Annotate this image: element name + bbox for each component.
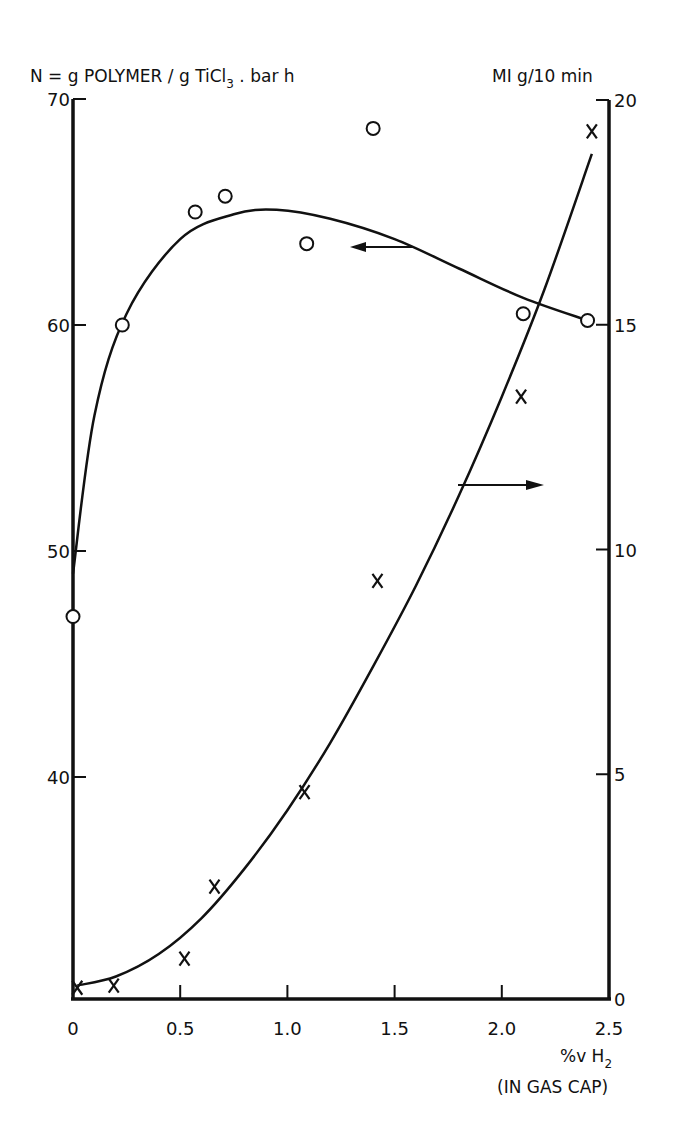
x-axis-title: %v H2 — [560, 1046, 612, 1071]
melt-index-data-point — [516, 390, 526, 404]
activity-data-point — [67, 610, 80, 623]
right-axis-arrow — [458, 480, 544, 490]
x-tick-label: 0.5 — [166, 1018, 195, 1039]
y-left-tick-label: 70 — [47, 89, 70, 110]
melt-index-data-point — [179, 952, 189, 966]
y-right-tick-label: 15 — [614, 315, 637, 336]
y-left-tick-label: 50 — [47, 541, 70, 562]
y-right-tick-label: 0 — [614, 989, 625, 1010]
melt-index-markers — [72, 124, 597, 994]
activity-markers — [67, 122, 595, 623]
y-right-tick-label: 20 — [614, 90, 637, 111]
activity-data-point — [300, 237, 313, 250]
y-right-tick-label: 5 — [614, 764, 625, 785]
axes — [71, 99, 611, 1000]
melt-index-data-point — [109, 979, 119, 993]
x-axis-subtitle: (IN GAS CAP) — [497, 1077, 608, 1097]
y-left-tick-label: 60 — [47, 315, 70, 336]
left-axis-title: N = g POLYMER / g TiCl3 . bar h — [30, 66, 295, 91]
melt-index-fit-curve — [77, 154, 592, 986]
axis-tick-labels: 00.51.01.52.02.54050607005101520 — [47, 89, 637, 1039]
activity-data-point — [517, 307, 530, 320]
x-tick-label: 1.0 — [273, 1018, 302, 1039]
activity-data-point — [219, 190, 232, 203]
melt-index-data-point — [300, 785, 310, 799]
melt-index-data-point — [210, 880, 220, 894]
activity-data-point — [116, 319, 129, 332]
activity-data-point — [367, 122, 380, 135]
activity-data-point — [581, 314, 594, 327]
activity-fit-curve — [73, 209, 588, 573]
melt-index-data-point — [372, 574, 382, 588]
y-left-tick-label: 40 — [47, 767, 70, 788]
x-tick-label: 2.0 — [487, 1018, 516, 1039]
melt-index-data-point — [587, 124, 597, 138]
chart: N = g POLYMER / g TiCl3 . bar h MI g/10 … — [0, 0, 682, 1142]
x-tick-label: 2.5 — [595, 1018, 624, 1039]
x-tick-label: 0 — [67, 1018, 78, 1039]
activity-data-point — [189, 206, 202, 219]
x-tick-label: 1.5 — [380, 1018, 409, 1039]
y-right-tick-label: 10 — [614, 540, 637, 561]
right-axis-title: MI g/10 min — [492, 66, 593, 86]
axis-ticks — [73, 325, 609, 999]
